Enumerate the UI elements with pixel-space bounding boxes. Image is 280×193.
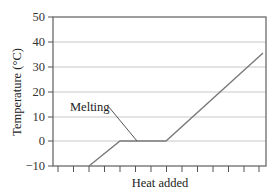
- y-tick-0: 0: [39, 134, 45, 148]
- gridlines: [53, 42, 266, 141]
- y-axis-title: Temperature (°C): [10, 48, 24, 136]
- y-tick-20: 20: [33, 85, 46, 99]
- y-tick-minus10: −10: [25, 159, 45, 173]
- y-axis-labels: 50 40 30 20 10 0 −10: [25, 10, 45, 173]
- heating-curve-chart: 50 40 30 20 10 0 −10 Melting Heat added …: [0, 0, 280, 193]
- y-tick-10: 10: [33, 110, 46, 124]
- y-tick-50: 50: [33, 10, 46, 24]
- heating-curve-line: [89, 53, 263, 166]
- y-tick-30: 30: [33, 60, 46, 74]
- x-axis-title: Heat added: [132, 176, 189, 190]
- x-axis-ticks: [58, 166, 259, 172]
- melting-leader-line: [108, 106, 137, 141]
- y-axis-ticks: [48, 17, 53, 166]
- y-tick-40: 40: [33, 35, 46, 49]
- melting-annotation-label: Melting: [70, 100, 110, 114]
